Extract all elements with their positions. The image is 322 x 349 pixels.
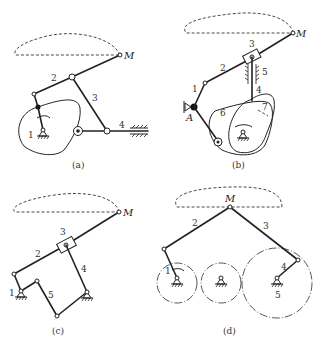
label-3-d: 3 [263,221,269,231]
caption-b: (b) [232,160,245,170]
panel-b: M 3 2 5 4 1 7 6 A (b) [184,13,307,170]
caption-a: (a) [72,160,84,170]
link-3-d [230,207,298,260]
label-3-b: 3 [249,39,255,49]
joint-a-23 [69,74,75,80]
joint-b-12 [203,81,207,85]
label-5-c: 5 [48,290,54,300]
link-2-ext-a [72,55,120,77]
label-4-c: 4 [81,264,87,274]
label-1-a: 1 [28,130,34,140]
rotation-arrow-b [235,125,252,127]
joint-c-12 [12,272,16,276]
cam-1 [19,100,81,155]
joint-d-34 [296,258,300,262]
joint-a-34 [104,128,110,134]
label-a-b: A [185,112,193,123]
panel-a: M 1 2 3 4 (a) [15,34,148,170]
link-1-c [14,274,21,291]
panel-d: M 2 3 1 4 5 (d) [157,187,312,336]
ground-pivot-b-cam [237,130,249,141]
label-2-a: 2 [51,73,57,83]
rotation-arrow-a [37,116,50,118]
joint-c-15 [35,279,39,283]
coupler-curve-b [185,13,293,33]
label-4-d: 4 [281,262,287,272]
link-1-a [38,107,43,130]
caption-d: (d) [223,326,236,336]
label-5-b: 5 [262,67,268,77]
ground-pivot-d3 [271,276,283,287]
coupler-curve-a [15,34,120,55]
gear-5-d [242,248,312,318]
label-6-b: 6 [220,108,226,118]
label-1-c: 1 [9,288,15,298]
label-3-a: 3 [92,93,98,103]
panel-c: M 3 2 4 1 5 (c) [9,194,134,336]
ground-pivot-d1 [171,276,183,287]
coupler-curve-c [14,194,119,212]
point-m-c [117,210,121,214]
ground-pivot-d2 [215,276,227,287]
label-2-d: 2 [192,218,198,228]
point-m-b [291,31,295,35]
link-1b-c [21,281,37,291]
link-3-a [72,77,107,131]
label-m-a: M [123,50,135,61]
mechanism-figure: M 1 2 3 4 (a) [0,0,322,349]
label-3-c: 3 [60,227,66,237]
gear-idler-d [201,263,241,303]
label-2-b: 2 [220,63,226,73]
label-7-b: 7 [262,102,268,112]
link-5b-c [57,292,87,316]
point-m-d [228,205,232,209]
joint-d-12 [162,247,166,251]
label-4-a: 4 [119,120,125,130]
label-4-b: 4 [256,85,262,95]
label-m-b: M [295,28,307,39]
ground-pivot-a1 [37,128,49,139]
caption-c: (c) [52,326,64,336]
joint-c-54 [55,314,59,318]
label-5-d: 5 [275,290,281,300]
label-m-d: M [224,193,236,204]
label-m-c: M [122,207,134,218]
link-5-c [37,281,57,316]
label-1-b: 1 [192,84,198,94]
joint-a-12 [32,92,36,96]
label-2-c: 2 [35,249,41,259]
ground-pivot-c1 [15,289,27,300]
link-2-d [164,207,230,249]
gear-1-d [157,263,197,303]
point-m-a [118,53,122,57]
label-1-d: 1 [165,266,171,276]
